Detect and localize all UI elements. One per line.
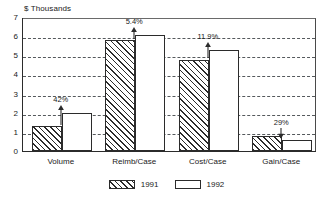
legend-swatch-1992 xyxy=(175,180,201,189)
legend-label-1992: 1992 xyxy=(207,180,225,189)
y-tick-label: 2 xyxy=(4,110,18,118)
bar-cost-case-1992 xyxy=(209,50,239,151)
legend-swatch-1991 xyxy=(109,180,135,189)
x-tick-label-volume: Volume xyxy=(47,157,74,166)
x-axis-line xyxy=(22,151,316,152)
y-tick-label: 4 xyxy=(4,71,18,79)
x-tick-label-gain-case: Gain/Case xyxy=(262,157,300,166)
bar-reimb-case-1992 xyxy=(135,35,165,151)
y-axis-line xyxy=(22,18,23,152)
bar-volume-1991 xyxy=(32,126,62,151)
legend-item-1992[interactable]: 1992 xyxy=(175,180,225,189)
plot-area xyxy=(22,18,316,152)
legend-item-1991[interactable]: 1991 xyxy=(109,180,159,189)
bar-chart: $ Thousands 76543210 42%5.4%11.9%29% Vol… xyxy=(0,0,333,203)
annotation-arrow-up xyxy=(204,42,211,58)
y-tick-label: 0 xyxy=(4,148,18,156)
legend: 19911992 xyxy=(0,180,333,189)
y-tick-label: 1 xyxy=(4,129,18,137)
annotation-label-gain-case: 29% xyxy=(274,118,289,127)
y-axis-title: $ Thousands xyxy=(24,4,71,13)
annotation-arrow-up xyxy=(131,27,138,39)
x-tick-label-reimb-case: Reimb/Case xyxy=(112,157,156,166)
legend-label-1991: 1991 xyxy=(141,180,159,189)
annotation-arrow-up xyxy=(57,105,64,125)
annotation-label-volume: 42% xyxy=(53,95,68,104)
x-tick-label-cost-case: Cost/Case xyxy=(189,157,226,166)
bar-reimb-case-1991 xyxy=(105,40,135,151)
bars-layer xyxy=(23,19,315,151)
annotation-arrow-down xyxy=(278,128,285,139)
y-tick-label: 6 xyxy=(4,33,18,41)
bar-gain-case-1992 xyxy=(282,140,312,151)
y-tick-label: 3 xyxy=(4,91,18,99)
y-tick-label: 5 xyxy=(4,52,18,60)
bar-cost-case-1991 xyxy=(179,60,209,152)
bar-volume-1992 xyxy=(62,113,92,151)
annotation-label-reimb-case: 5.4% xyxy=(126,17,143,26)
y-tick-label: 7 xyxy=(4,14,18,22)
annotation-label-cost-case: 11.9% xyxy=(197,32,218,41)
